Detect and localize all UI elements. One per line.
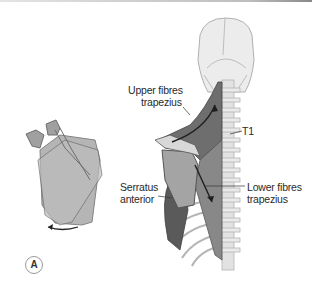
label-upper-fibres-line2: trapezius	[141, 96, 182, 108]
panel-label-badge: A	[25, 256, 43, 274]
rotation-arrow-icon	[48, 227, 78, 230]
label-serratus-line2: anterior	[120, 193, 154, 205]
label-t1: T1	[242, 125, 254, 137]
scapula-rotation-diagram	[26, 120, 102, 230]
anatomy-illustration	[0, 0, 312, 289]
label-lower-fibres-line2: trapezius	[247, 193, 288, 205]
label-serratus-line1: Serratus	[120, 181, 158, 193]
label-lower-fibres-line1: Lower fibres	[247, 181, 302, 193]
label-upper-fibres-line1: Upper fibres	[128, 84, 183, 96]
